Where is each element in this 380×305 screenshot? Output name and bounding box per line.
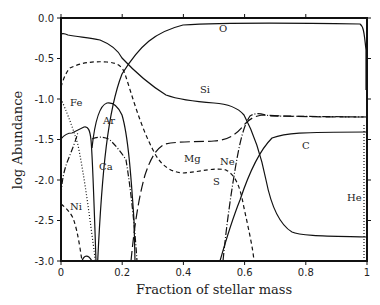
label-s: S	[213, 176, 220, 187]
label-mg: Mg	[184, 153, 201, 164]
label-fe: Fe	[70, 97, 82, 108]
x-tick-label: 0.2	[114, 267, 130, 278]
x-tick-label: 0.4	[175, 267, 191, 278]
curve-si	[61, 34, 367, 237]
y-tick-label: -2.0	[34, 175, 54, 186]
label-si: Si	[200, 84, 210, 95]
label-ne: Ne	[220, 156, 235, 167]
y-axis-title: log Abundance	[10, 91, 25, 190]
label-ca: Ca	[99, 161, 113, 172]
label-ar: Ar	[102, 115, 115, 126]
x-tick-label: 1	[364, 267, 370, 278]
abundance-chart: 0.0 -0.5 -1.0 -1.5 -2.0 -2.5 -3.0 0 0.2 …	[0, 0, 380, 305]
label-he: He	[347, 192, 362, 203]
y-tick-label: -2.5	[34, 215, 54, 226]
curve-mg	[131, 115, 367, 261]
y-tick-label: -0.5	[34, 53, 54, 64]
label-c: C	[302, 140, 310, 151]
curve-c	[220, 132, 367, 261]
y-tick-label: -3.0	[34, 256, 54, 267]
x-tick-label: 0.6	[237, 267, 253, 278]
x-tick-label: 0	[58, 267, 64, 278]
label-ni: Ni	[70, 201, 82, 212]
label-o: O	[219, 23, 227, 34]
y-tick-label: 0.0	[38, 13, 54, 24]
x-tick-label: 0.8	[298, 267, 314, 278]
curve-ni	[61, 204, 82, 261]
y-axis	[57, 18, 371, 261]
curve-ca-left	[61, 132, 78, 195]
y-tick-label: -1.0	[34, 94, 54, 105]
y-tick-label: -1.5	[34, 134, 54, 145]
curve-o	[98, 23, 366, 261]
x-axis-title: Fraction of stellar mass	[136, 282, 292, 297]
